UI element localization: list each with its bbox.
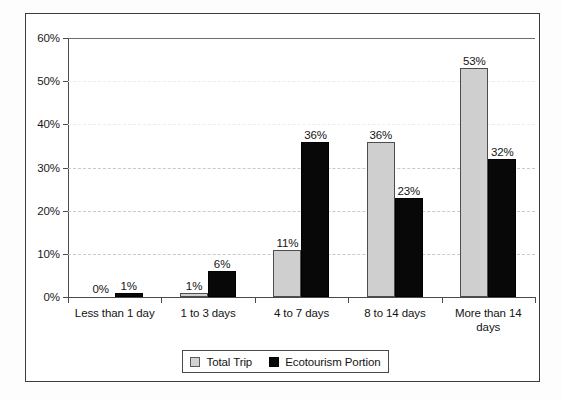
y-axis-tick-label: 10% xyxy=(20,248,60,260)
legend-swatch-total-trip xyxy=(190,357,200,367)
x-axis-tick-mark xyxy=(255,297,256,303)
bar-value-label: 32% xyxy=(491,146,514,158)
y-axis-tick-label: 40% xyxy=(20,118,60,130)
bar-chart-figure: 0%10%20%30%40%50%60% 0%1%1%6%11%36%36%23… xyxy=(0,0,561,400)
legend-entry: Ecotourism Portion xyxy=(269,356,380,368)
y-axis-tick-label: 50% xyxy=(20,75,60,87)
x-axis-category-label: Less than 1 day xyxy=(68,307,161,321)
bar-total-trip: 36% xyxy=(367,142,395,297)
x-axis-category-label: 8 to 14 days xyxy=(348,307,441,321)
x-axis-tick-mark xyxy=(348,297,349,303)
x-axis-category-label: More than 14days xyxy=(442,307,535,334)
bar-group: 1%6% xyxy=(161,38,254,297)
x-axis-category-label-line: 1 to 3 days xyxy=(161,307,254,321)
gridline xyxy=(68,297,535,298)
x-axis-category-label-line: days xyxy=(442,321,535,335)
legend-swatch-ecotourism-portion xyxy=(269,357,279,367)
y-axis-tick-label: 60% xyxy=(20,32,60,44)
bar-value-label: 11% xyxy=(277,237,299,249)
x-axis-tick-mark xyxy=(442,297,443,303)
bar-group: 11%36% xyxy=(255,38,348,297)
bar-value-label: 23% xyxy=(398,185,421,197)
bar-total-trip: 53% xyxy=(460,68,488,297)
x-axis-category-label-line: 4 to 7 days xyxy=(255,307,348,321)
bar-value-label: 1% xyxy=(120,280,136,292)
bar-group: 36%23% xyxy=(348,38,441,297)
bar-ecotourism-portion: 36% xyxy=(301,142,329,297)
bar-value-label: 36% xyxy=(370,129,393,141)
x-axis-tick-mark xyxy=(68,297,69,303)
x-axis-tick-mark xyxy=(161,297,162,303)
x-axis-category-label-line: More than 14 xyxy=(442,307,535,321)
x-axis-category-label-line: 8 to 14 days xyxy=(348,307,441,321)
y-axis-tick-label: 30% xyxy=(20,162,60,174)
bar-group: 0%1% xyxy=(68,38,161,297)
bar-total-trip: 1% xyxy=(180,293,208,297)
bar-ecotourism-portion: 23% xyxy=(395,198,423,297)
bar-group: 53%32% xyxy=(442,38,535,297)
x-axis-category-label: 4 to 7 days xyxy=(255,307,348,321)
bar-value-label: 53% xyxy=(463,55,486,67)
legend-label: Ecotourism Portion xyxy=(285,356,380,368)
chart-legend: Total TripEcotourism Portion xyxy=(182,350,389,373)
y-axis-tick-label: 0% xyxy=(20,291,60,303)
bar-ecotourism-portion: 1% xyxy=(115,293,143,297)
bar-value-label: 36% xyxy=(304,129,327,141)
bar-value-label: 0% xyxy=(92,283,108,295)
x-axis-category-label: 1 to 3 days xyxy=(161,307,254,321)
plot-area: 0%1%1%6%11%36%36%23%53%32% xyxy=(68,38,535,297)
y-axis-tick-label: 20% xyxy=(20,205,60,217)
bar-value-label: 6% xyxy=(214,258,230,270)
x-axis-category-label-line: Less than 1 day xyxy=(68,307,161,321)
bar-total-trip: 11% xyxy=(273,250,301,297)
bar-value-label: 1% xyxy=(186,280,202,292)
legend-label: Total Trip xyxy=(206,356,252,368)
x-axis-tick-mark xyxy=(535,297,536,303)
bar-ecotourism-portion: 32% xyxy=(488,159,516,297)
legend-entry: Total Trip xyxy=(190,356,252,368)
bar-ecotourism-portion: 6% xyxy=(208,271,236,297)
